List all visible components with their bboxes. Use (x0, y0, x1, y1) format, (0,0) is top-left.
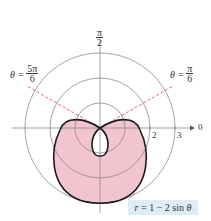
equation-theta: θ (186, 202, 191, 213)
theta-prefix: θ = (170, 69, 184, 80)
theta-prefix: θ = (10, 69, 24, 80)
equation-body: = 1 − 2 sin (139, 202, 187, 213)
pi-over-2-denominator: 2 (97, 38, 102, 48)
label-theta-5pi-6: θ = 5π 6 (10, 64, 38, 84)
fraction-denominator: 6 (187, 74, 192, 84)
axis-arrow-icon (190, 126, 195, 131)
equation-label: r = 1 − 2 sin θ (128, 200, 198, 215)
label-zero: 0 (198, 122, 203, 132)
tick-label-3: 3 (177, 130, 182, 140)
fraction-denominator: 6 (30, 74, 35, 84)
tick-label-2: 2 (152, 130, 157, 140)
polar-plot (0, 0, 211, 221)
label-theta-pi-6: θ = π 6 (170, 64, 193, 84)
label-pi-over-2: π 2 (94, 28, 103, 48)
